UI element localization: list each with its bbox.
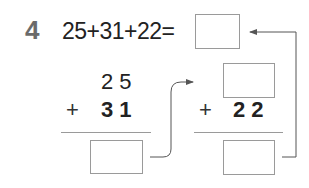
curved-arrow-icon [150,82,193,157]
return-arrow-icon [250,32,296,157]
connector-arrows [0,0,309,188]
